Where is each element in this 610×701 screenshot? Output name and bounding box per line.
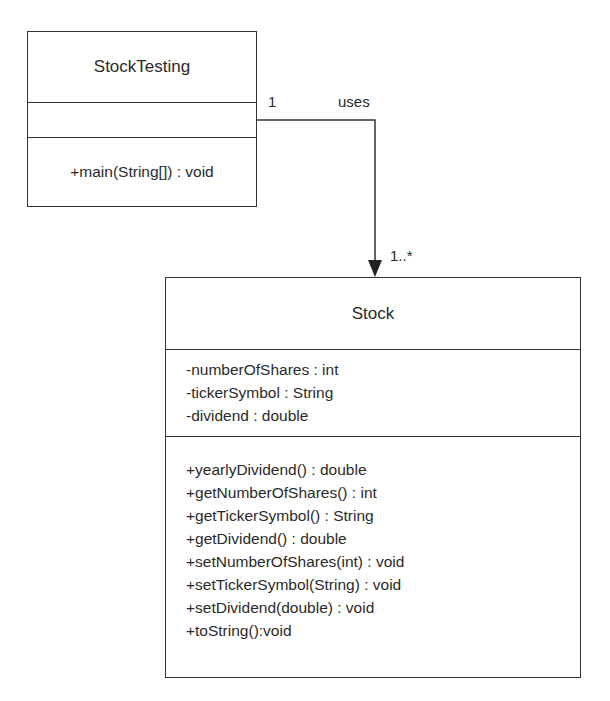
arrowhead-icon xyxy=(368,260,382,277)
association-label: uses xyxy=(338,93,370,110)
operation: +getNumberOfShares() : int xyxy=(186,481,580,504)
attribute: -numberOfShares : int xyxy=(186,358,580,381)
operation: +setTickerSymbol(String) : void xyxy=(186,573,580,596)
attributes-section xyxy=(28,103,256,137)
operations-section: +yearlyDividend() : double +getNumberOfS… xyxy=(166,458,580,642)
operation: +getTickerSymbol() : String xyxy=(186,504,580,527)
divider xyxy=(166,349,580,350)
operation: +yearlyDividend() : double xyxy=(186,458,580,481)
operation: +setNumberOfShares(int) : void xyxy=(186,550,580,573)
attributes-section: -numberOfShares : int -tickerSymbol : St… xyxy=(166,358,580,427)
class-name: Stock xyxy=(166,278,580,349)
attribute: -tickerSymbol : String xyxy=(186,381,580,404)
target-multiplicity: 1..* xyxy=(390,247,413,264)
class-stock[interactable]: Stock -numberOfShares : int -tickerSymbo… xyxy=(165,277,581,678)
operation: +toString():void xyxy=(186,619,580,642)
attribute: -dividend : double xyxy=(186,404,580,427)
operation: +getDividend() : double xyxy=(186,527,580,550)
operations-section: +main(String[]) : void xyxy=(28,138,256,206)
divider xyxy=(166,436,580,437)
class-stocktesting[interactable]: StockTesting +main(String[]) : void xyxy=(27,31,257,207)
class-name: StockTesting xyxy=(28,32,256,102)
operation: +main(String[]) : void xyxy=(70,163,213,181)
operation: +setDividend(double) : void xyxy=(186,596,580,619)
source-multiplicity: 1 xyxy=(268,93,276,110)
association-line xyxy=(256,120,375,262)
